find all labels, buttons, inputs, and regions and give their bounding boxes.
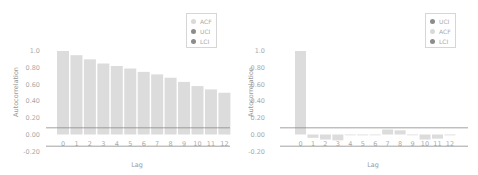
- acf-bar[interactable]: [111, 66, 123, 134]
- lci-dot-icon: [430, 39, 435, 44]
- acf-bar[interactable]: [370, 135, 381, 136]
- acf-bar[interactable]: [345, 135, 356, 136]
- y-tick-label: 1.0: [255, 47, 265, 55]
- acf-bar[interactable]: [382, 129, 393, 134]
- x-tick-label: 7: [386, 140, 390, 148]
- x-tick-label: 0: [61, 140, 65, 148]
- uci-dot-icon: [191, 29, 196, 34]
- y-axis-label: Autocorrelation: [12, 67, 20, 117]
- legend-item-uci[interactable]: UCI: [430, 16, 451, 26]
- lci-dot-icon: [191, 39, 196, 44]
- y-tick-label: 0.80: [26, 64, 40, 72]
- x-tick-label: 7: [155, 140, 159, 148]
- x-tick-label: 11: [207, 140, 215, 148]
- x-axis-label: Lag: [367, 161, 379, 169]
- legend-label: LCI: [439, 38, 448, 45]
- x-tick-label: 6: [373, 140, 377, 148]
- x-tick-label: 8: [398, 140, 402, 148]
- acf-bar[interactable]: [138, 72, 150, 135]
- acf-bar[interactable]: [432, 135, 443, 139]
- x-tick-label: 8: [169, 140, 173, 148]
- x-tick-label: 0: [298, 140, 302, 148]
- y-axis-label: Autocorrelation: [247, 67, 255, 117]
- legend-item-acf[interactable]: ACF: [191, 16, 212, 26]
- x-tick-label: 12: [220, 140, 228, 148]
- legend-item-lci[interactable]: LCI: [191, 36, 212, 46]
- acf-bar[interactable]: [97, 64, 109, 135]
- acf-bar[interactable]: [151, 74, 163, 134]
- x-tick-label: 10: [193, 140, 201, 148]
- acf-bar[interactable]: [70, 55, 82, 134]
- acf-bar[interactable]: [84, 59, 96, 134]
- x-tick-label: 3: [101, 140, 105, 148]
- x-tick-label: 2: [88, 140, 92, 148]
- x-tick-label: 4: [348, 140, 352, 148]
- y-tick-label: -0.20: [248, 148, 265, 156]
- legend-item-lci[interactable]: LCI: [430, 36, 451, 46]
- acf-bar[interactable]: [165, 78, 177, 135]
- legend-item-uci[interactable]: UCI: [191, 26, 212, 36]
- x-tick-label: 5: [128, 140, 132, 148]
- pacf-legend: UCI ACF LCI: [425, 13, 456, 48]
- acf-bar[interactable]: [307, 135, 318, 138]
- acf-bar[interactable]: [357, 135, 368, 136]
- legend-label: ACF: [200, 18, 212, 25]
- x-tick-label: 4: [115, 140, 119, 148]
- acf-bar[interactable]: [295, 51, 306, 135]
- acf-legend: ACF UCI LCI: [186, 13, 217, 48]
- acf-bar[interactable]: [395, 130, 406, 134]
- legend-label: LCI: [200, 38, 209, 45]
- y-tick-label: 0.40: [26, 97, 40, 105]
- acf-bar[interactable]: [444, 135, 455, 136]
- uci-dot-icon: [430, 19, 435, 24]
- acf-bar[interactable]: [218, 93, 230, 135]
- legend-label: ACF: [439, 28, 451, 35]
- acf-chart-panel: 1.00.800.600.400.200.00-0.20012345678910…: [0, 0, 240, 175]
- x-tick-label: 11: [433, 140, 441, 148]
- y-tick-label: 1.0: [30, 47, 40, 55]
- acf-bar[interactable]: [57, 51, 69, 135]
- acf-dot-icon: [191, 19, 196, 24]
- legend-item-acf[interactable]: ACF: [430, 26, 451, 36]
- acf-bar[interactable]: [192, 86, 204, 134]
- acf-bar[interactable]: [178, 82, 190, 135]
- acf-bar[interactable]: [320, 135, 331, 140]
- y-tick-label: -0.20: [23, 148, 40, 156]
- legend-label: UCI: [439, 18, 449, 25]
- x-tick-label: 3: [336, 140, 340, 148]
- y-tick-label: 0.00: [251, 131, 265, 139]
- pacf-chart-panel: 1.00.800.600.400.200.00-0.20012345678910…: [240, 0, 478, 175]
- x-tick-label: 1: [74, 140, 78, 148]
- x-tick-label: 9: [182, 140, 186, 148]
- acf-dot-icon: [430, 29, 435, 34]
- x-tick-label: 1: [311, 140, 315, 148]
- x-tick-label: 12: [446, 140, 454, 148]
- y-tick-label: 0.00: [26, 131, 40, 139]
- acf-bar[interactable]: [407, 135, 418, 136]
- acf-bar[interactable]: [420, 135, 431, 140]
- acf-bar[interactable]: [124, 69, 136, 135]
- x-tick-label: 5: [361, 140, 365, 148]
- y-tick-label: 0.60: [26, 81, 40, 89]
- x-tick-label: 2: [323, 140, 327, 148]
- legend-label: UCI: [200, 28, 210, 35]
- x-tick-label: 10: [421, 140, 429, 148]
- x-tick-label: 6: [142, 140, 146, 148]
- x-axis-label: Lag: [131, 161, 143, 169]
- y-tick-label: 0.20: [26, 114, 40, 122]
- x-tick-label: 9: [410, 140, 414, 148]
